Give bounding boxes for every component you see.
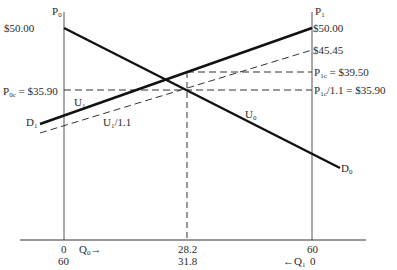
d0-label: D0 [341, 162, 352, 178]
left-top-price-label: $50.00 [4, 22, 34, 34]
right-mid-price-label: $45.45 [313, 44, 343, 56]
u1-label: U1 [74, 96, 85, 112]
x-right-bottom-tick: 0 [310, 255, 316, 267]
p0c-price-label: P0c = $35.90 [3, 85, 58, 101]
x-left-top-tick: 0 [61, 243, 67, 255]
u1-div-label: U1/1.1 [103, 116, 131, 132]
q0-direction-label: Q0→ [79, 243, 101, 259]
x-mid-bottom-tick: 31.8 [178, 255, 197, 267]
d1-label: D1 [26, 116, 37, 132]
diagram-lines [0, 0, 397, 270]
x-left-bottom-tick: 60 [58, 255, 69, 267]
p1c-price-label: P1c = $39.50 [314, 66, 369, 82]
q1-direction-label: ←Q1 [283, 255, 305, 270]
x-right-top-tick: 60 [307, 243, 318, 255]
two-market-price-diagram: P0 $50.00 P0c = $35.90 P1 $50.00 $45.45 … [0, 0, 397, 270]
x-mid-top-tick: 28.2 [178, 243, 197, 255]
p1c-div-price-label: P1c/1.1 = $35.90 [314, 84, 386, 100]
d0-demand-curve [64, 28, 340, 168]
right-axis-label: P1 [315, 5, 325, 21]
left-axis-label: P0 [52, 5, 62, 21]
right-top-price-label: $50.00 [313, 22, 343, 34]
u0-label: U0 [245, 108, 256, 124]
u1-div-dashed-curve [40, 50, 312, 133]
